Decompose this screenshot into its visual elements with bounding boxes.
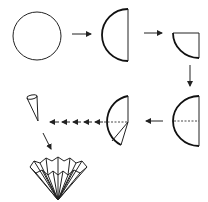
folding-diagram bbox=[0, 0, 208, 202]
fluted-fan-shape bbox=[30, 157, 87, 200]
arrow-diagonal bbox=[43, 133, 51, 149]
half-circle-shape bbox=[102, 9, 128, 61]
quarter-circle-shape bbox=[173, 33, 199, 58]
half-circle-unfolded-shape bbox=[173, 96, 199, 146]
half-circle-segment-shape bbox=[104, 96, 128, 145]
circle-shape bbox=[13, 12, 61, 60]
cone-shape bbox=[27, 94, 38, 121]
